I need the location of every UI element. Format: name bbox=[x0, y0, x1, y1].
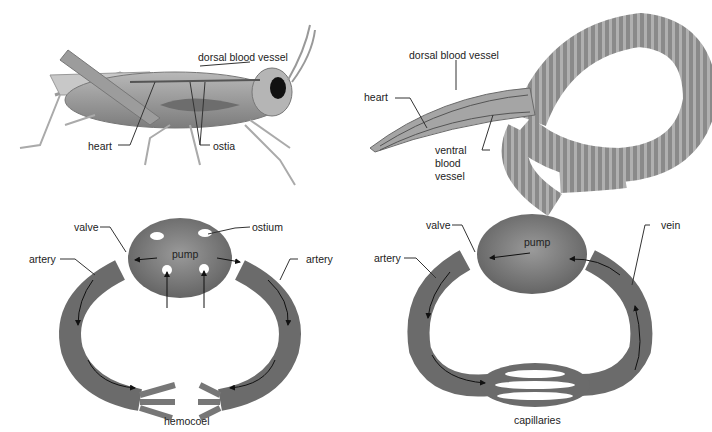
closed-artery-label: artery bbox=[374, 252, 401, 264]
grasshopper-heart-label: heart bbox=[88, 140, 112, 152]
grasshopper-ostia-label: ostia bbox=[213, 140, 235, 152]
earthworm-heart-label: heart bbox=[364, 91, 388, 103]
closed-pump-label: pump bbox=[524, 236, 550, 248]
grasshopper-dorsal-vessel-label: dorsal blood vessel bbox=[198, 51, 288, 63]
diagram-canvas bbox=[0, 0, 712, 432]
earthworm-dorsal-vessel-label: dorsal blood vessel bbox=[409, 49, 499, 61]
open-artery-left-label: artery bbox=[29, 253, 56, 265]
closed-valve-label: valve bbox=[426, 219, 451, 231]
open-artery-right-label: artery bbox=[306, 253, 333, 265]
earthworm-ventral-vessel-label-2: blood bbox=[435, 157, 461, 169]
capillaries-label: capillaries bbox=[514, 414, 561, 426]
earthworm-ventral-vessel-label-1: ventral bbox=[435, 144, 467, 156]
open-ostium-label: ostium bbox=[252, 221, 283, 233]
open-valve-label: valve bbox=[74, 221, 99, 233]
open-pump-label: pump bbox=[172, 248, 198, 260]
closed-vein-label: vein bbox=[661, 219, 680, 231]
earthworm-ventral-vessel-label-3: vessel bbox=[435, 170, 465, 182]
hemocoel-label: hemocoel bbox=[164, 415, 210, 427]
grasshopper-illustration bbox=[20, 25, 315, 185]
